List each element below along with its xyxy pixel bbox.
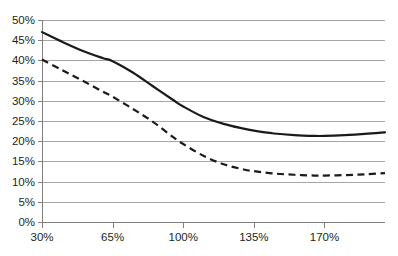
- x-axis-tick-label: 135%: [239, 231, 268, 243]
- y-axis-tick-label: 30%: [12, 95, 35, 107]
- line-chart: 0%5%10%15%20%25%30%35%40%45%50% 30%65%10…: [0, 0, 398, 256]
- y-axis-tick-label: 40%: [12, 54, 35, 66]
- y-axis-tick-label: 35%: [12, 75, 35, 87]
- y-axis-tick-label: 15%: [12, 155, 35, 167]
- x-axis-tick-label: 65%: [101, 231, 124, 243]
- x-axis-tick-label: 30%: [30, 231, 53, 243]
- y-axis-tick-labels: 0%5%10%15%20%25%30%35%40%45%50%: [12, 14, 35, 228]
- x-axis-tick-label: 170%: [310, 231, 339, 243]
- series-line-solid-series: [42, 32, 385, 136]
- y-axis-tick-label: 45%: [12, 34, 35, 46]
- y-axis-tick-label: 50%: [12, 14, 35, 26]
- y-axis-tick-label: 20%: [12, 135, 35, 147]
- x-axis-tick-labels: 30%65%100%135%170%: [30, 231, 339, 243]
- data-series: [42, 32, 385, 175]
- chart-container: 0%5%10%15%20%25%30%35%40%45%50% 30%65%10…: [0, 0, 398, 256]
- y-axis-tick-label: 0%: [18, 216, 35, 228]
- y-axis-tick-label: 10%: [12, 176, 35, 188]
- y-axis-tick-label: 25%: [12, 115, 35, 127]
- y-axis-tick-label: 5%: [18, 196, 35, 208]
- x-axis-tick-label: 100%: [169, 231, 198, 243]
- x-axis: [42, 223, 385, 228]
- y-axis: [38, 20, 43, 223]
- series-line-dashed-series: [42, 60, 385, 176]
